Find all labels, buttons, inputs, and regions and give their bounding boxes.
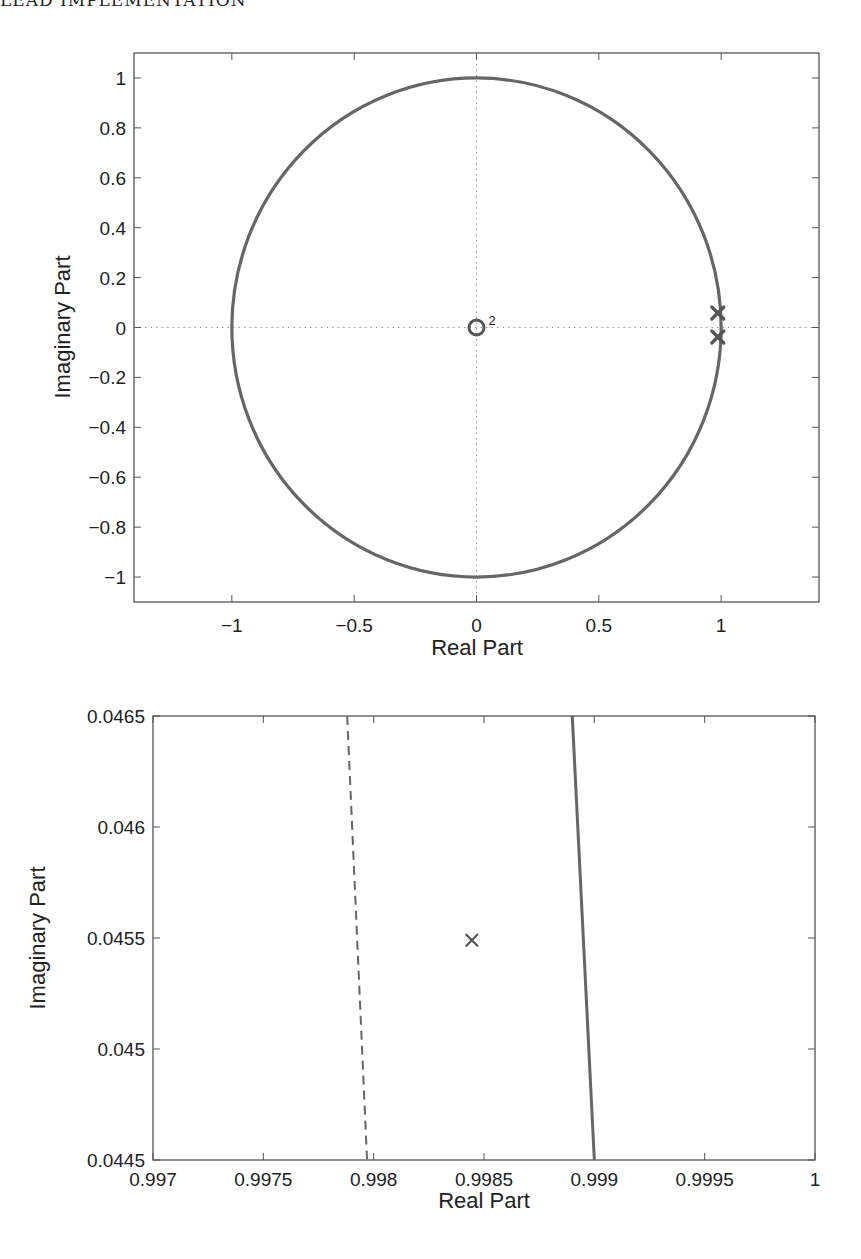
x-tick-label: 1 [810, 1169, 821, 1190]
unit-circle-arc [572, 716, 594, 1160]
y-ticks: 0.04650.0460.04550.0450.0445 [87, 706, 815, 1171]
y-tick-label: 0.045 [97, 1039, 145, 1060]
x-axis-label: Real Part [438, 1188, 530, 1213]
y-tick-label: 0.046 [97, 817, 145, 838]
x-tick-label: 0.9995 [676, 1169, 734, 1190]
y-axis-label: Imaginary Part [25, 866, 50, 1009]
x-tick-label: 0.998 [350, 1169, 398, 1190]
x-tick-label: 0.999 [571, 1169, 619, 1190]
y-tick-label: 0.0455 [87, 928, 145, 949]
x-ticks: 0.9970.99750.9980.99850.9990.99951 [129, 716, 820, 1190]
x-tick-label: 0.9975 [234, 1169, 292, 1190]
plot-border [153, 716, 815, 1160]
pole-markers [466, 935, 477, 946]
x-tick-label: 0.997 [129, 1169, 177, 1190]
dashed-boundary-line [347, 716, 367, 1160]
x-tick-label: 0.9985 [455, 1169, 513, 1190]
plot-frame [153, 716, 815, 1160]
y-tick-label: 0.0465 [87, 706, 145, 727]
zoomed-pole-chart: 0.04650.0460.04550.0450.0445 0.9970.9975… [0, 0, 861, 1259]
y-tick-label: 0.0445 [87, 1150, 145, 1171]
